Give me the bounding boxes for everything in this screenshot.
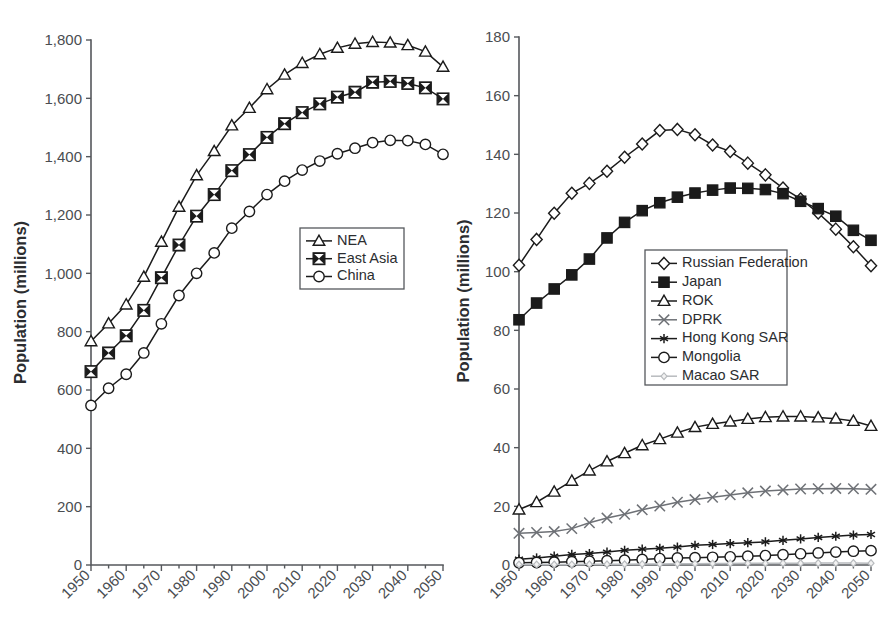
data-point [742, 157, 753, 169]
x-tick-label: 2010 [269, 566, 305, 602]
data-point [866, 235, 876, 245]
data-point [707, 139, 718, 151]
x-tick-label: 1990 [626, 566, 662, 602]
x-tick-label: 2050 [838, 566, 874, 602]
data-point [725, 145, 736, 157]
legend-label: NEA [337, 232, 367, 248]
data-point [403, 135, 413, 145]
data-point [619, 217, 629, 227]
x-tick-label: 1950 [58, 566, 94, 602]
data-point [297, 165, 307, 175]
legend-label: Hong Kong SAR [682, 329, 788, 345]
data-point [778, 550, 788, 560]
y-tick-label: 800 [57, 323, 82, 340]
data-point [244, 206, 254, 216]
legend-label: China [337, 267, 376, 283]
data-point [813, 203, 823, 213]
data-point [86, 400, 96, 410]
x-tick-label: 2000 [662, 566, 698, 602]
data-point [244, 149, 256, 161]
data-point [332, 149, 342, 159]
legend-label: DPRK [682, 311, 723, 327]
data-point [831, 211, 841, 221]
data-point [296, 107, 308, 119]
data-point [795, 549, 805, 559]
legend-marker [313, 253, 325, 265]
data-point [654, 125, 665, 137]
y-tick-label: 60 [493, 380, 510, 397]
data-point [279, 176, 289, 186]
y-tick-label: 140 [485, 146, 510, 163]
data-point [332, 91, 344, 103]
series-path [91, 81, 443, 371]
data-point [367, 137, 377, 147]
data-point [315, 156, 325, 166]
series-dprk [514, 483, 876, 538]
data-point [156, 272, 168, 284]
x-tick-label: 2040 [802, 566, 838, 602]
data-point [584, 518, 594, 528]
data-point [637, 205, 647, 215]
legend-label: Japan [682, 273, 722, 289]
legend-label: East Asia [337, 250, 398, 266]
data-point [531, 298, 541, 308]
x-tick-label: 2040 [374, 566, 410, 602]
data-point [619, 151, 630, 163]
data-point [531, 233, 542, 245]
y-tick-label: 20 [493, 498, 510, 515]
data-point [279, 69, 291, 79]
series-path [519, 488, 871, 533]
series-east-asia [85, 76, 449, 378]
y-tick-label: 1,800 [44, 31, 82, 48]
legend-marker [314, 271, 324, 281]
data-point [173, 239, 185, 251]
data-point [602, 513, 612, 523]
data-point [637, 138, 648, 150]
y-tick-label: 600 [57, 381, 82, 398]
legend-marker [659, 277, 669, 287]
data-point [438, 149, 448, 159]
data-point [513, 504, 525, 514]
data-point [138, 304, 150, 316]
left-x-ticks: 1950196019701980199020002010202020302040… [58, 565, 446, 602]
legend-marker [659, 352, 669, 362]
data-point [226, 165, 238, 177]
data-point [567, 270, 577, 280]
right-x-ticks: 1950196019701980199020002010202020302040… [486, 565, 874, 602]
x-tick-label: 1990 [198, 566, 234, 602]
data-point [384, 76, 396, 88]
right-y-axis-title: Population (millions) [454, 219, 472, 382]
x-tick-label: 2000 [234, 566, 270, 602]
data-point [866, 545, 876, 555]
data-point [619, 447, 631, 457]
y-tick-label: 400 [57, 440, 82, 457]
chart-panel-right: 020406080100120140160180 195019601970198… [455, 0, 895, 637]
data-point [602, 233, 612, 243]
data-point [725, 183, 735, 193]
x-tick-label: 2010 [697, 566, 733, 602]
data-point [367, 36, 379, 46]
left-axis-lines [91, 40, 443, 565]
x-tick-label: 1950 [486, 566, 522, 602]
data-point [513, 259, 524, 271]
data-point [367, 76, 379, 88]
data-point [690, 188, 700, 198]
data-point [813, 548, 823, 558]
data-point [760, 184, 770, 194]
data-point [549, 284, 559, 294]
legend-label: Mongolia [682, 348, 742, 364]
y-tick-label: 120 [485, 204, 510, 221]
data-point [672, 192, 682, 202]
x-tick-label: 1960 [93, 566, 129, 602]
data-point [296, 57, 308, 67]
data-point [831, 547, 841, 557]
x-tick-label: 2030 [767, 566, 803, 602]
y-tick-label: 80 [493, 322, 510, 339]
data-point [655, 198, 665, 208]
y-tick-label: 40 [493, 439, 510, 456]
data-point [514, 315, 524, 325]
data-point [120, 299, 132, 309]
data-point [103, 347, 115, 359]
data-point [795, 196, 805, 206]
data-point [121, 369, 131, 379]
